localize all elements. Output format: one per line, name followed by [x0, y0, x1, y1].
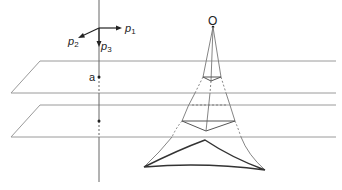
point-a-dot — [98, 76, 101, 79]
lower-plane — [11, 105, 336, 137]
upper-cross-section — [203, 77, 221, 81]
middle-cross-section — [182, 121, 235, 131]
point-a-label: a — [89, 71, 96, 83]
axis-p2-label: p2 — [67, 35, 79, 49]
upper-plane — [11, 61, 336, 93]
axes-triad — [78, 26, 122, 48]
axis-p3-label: p3 — [100, 40, 112, 54]
base-curved-triangle — [144, 140, 265, 170]
axis-p1-label: p1 — [124, 22, 136, 36]
diagram-canvas: a p1 p2 p3 O — [0, 0, 342, 190]
point-lower-dot — [98, 120, 101, 123]
cone-edges — [144, 27, 265, 170]
